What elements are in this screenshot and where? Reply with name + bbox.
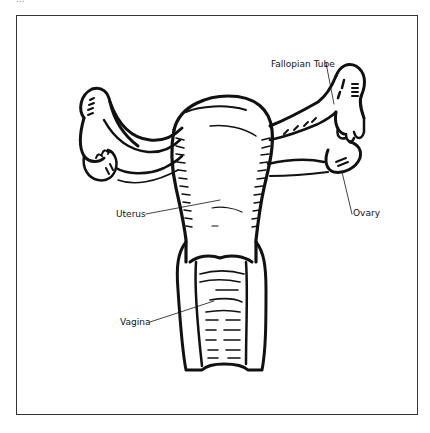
ovary-leader: [342, 172, 352, 214]
label-fallopian-tube: Fallopian Tube: [271, 60, 335, 69]
label-uterus: Uterus: [116, 210, 146, 219]
uterus-illustration: [172, 96, 273, 262]
right-ovary-illustration: [326, 64, 364, 172]
vagina-illustration: [177, 242, 266, 370]
label-ovary: Ovary: [353, 209, 380, 218]
label-vagina: Vagina: [120, 318, 150, 327]
vagina-leader: [150, 301, 214, 322]
